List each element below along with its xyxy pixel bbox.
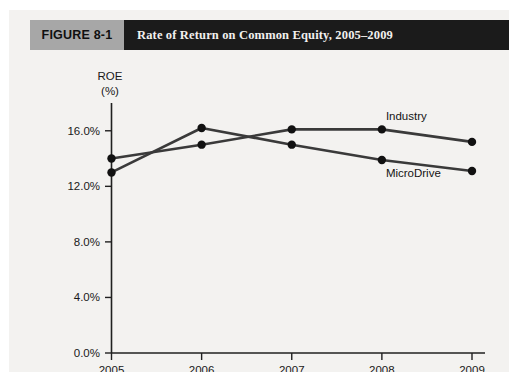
data-point-microdrive-2007 (288, 140, 296, 148)
chart-plot-area: ROE (%) 0.0%4.0%8.0%12.0%16.0% 200520062… (9, 50, 509, 372)
y-axis-label-units: (%) (101, 85, 119, 97)
y-tick-label: 12.0% (67, 180, 100, 192)
figure-title-box: Rate of Return on Common Equity, 2005–20… (124, 20, 509, 50)
data-point-microdrive-2008 (378, 156, 386, 164)
y-axis-ticks: 0.0%4.0%8.0%12.0%16.0% (67, 125, 112, 359)
x-tick-label: 2009 (459, 364, 485, 372)
figure-number-label: FIGURE 8-1 (42, 28, 113, 42)
x-axis-ticks: 20052006200720082009 (99, 353, 485, 372)
data-point-industry-2006 (197, 140, 205, 148)
y-axis-label-roe: ROE (98, 70, 123, 82)
series-label-industry: Industry (386, 110, 427, 122)
data-point-industry-2007 (288, 125, 296, 133)
y-tick-label: 16.0% (67, 125, 100, 137)
y-tick-label: 4.0% (74, 291, 100, 303)
series-annotations: IndustryMicroDrive (386, 110, 441, 179)
data-point-industry-2005 (107, 154, 115, 162)
x-tick-label: 2005 (99, 364, 125, 372)
figure-panel: FIGURE 8-1 Rate of Return on Common Equi… (9, 10, 509, 372)
series-label-microdrive: MicroDrive (386, 167, 441, 179)
figure-header: FIGURE 8-1 Rate of Return on Common Equi… (30, 20, 509, 50)
data-point-microdrive-2005 (107, 168, 115, 176)
y-tick-label: 8.0% (74, 236, 100, 248)
figure-number-box: FIGURE 8-1 (30, 20, 124, 50)
x-tick-label: 2006 (189, 364, 215, 372)
data-point-industry-2008 (378, 125, 386, 133)
x-tick-label: 2007 (279, 364, 305, 372)
data-point-microdrive-2006 (197, 124, 205, 132)
y-tick-label: 0.0% (74, 347, 100, 359)
data-point-microdrive-2009 (468, 167, 476, 175)
x-tick-label: 2008 (369, 364, 395, 372)
y-axis-caption: ROE (%) (98, 70, 123, 97)
line-chart: ROE (%) 0.0%4.0%8.0%12.0%16.0% 200520062… (9, 50, 509, 372)
data-point-industry-2009 (468, 138, 476, 146)
figure-title: Rate of Return on Common Equity, 2005–20… (137, 28, 393, 43)
